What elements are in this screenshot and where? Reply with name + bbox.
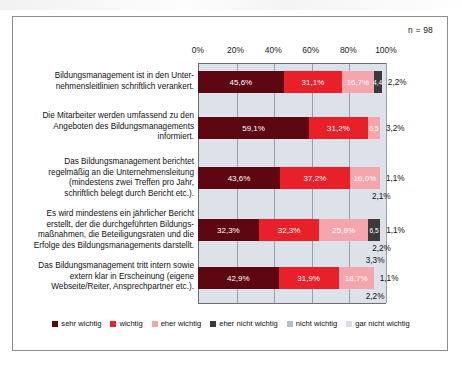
category-label-line: Webseite/Reiter, Ansprechpartner etc.). [19,282,194,293]
sample-size-label: n = 98 [408,25,433,35]
stacked-bar[interactable]: 42,9%31,9%18,7% [198,267,374,289]
segment-value-callout: 3,3% [366,256,385,265]
legend-label: gar nicht wichtig [355,319,409,328]
segment-value-callout: 1,1% [380,274,399,283]
legend-item[interactable]: gar nicht wichtig [346,319,409,328]
segment-value-callout: 1,1% [386,226,405,235]
category-label-line: Es wird mindestens ein jährlicher Berich… [19,209,194,220]
legend-label: wichtig [119,319,142,328]
bar-segment[interactable]: 31,2% [309,117,368,139]
legend-label: eher nicht wichtig [219,319,278,328]
category-label-line: Angeboten des Bildungsmanagements [19,122,194,133]
stacked-bar-chart: 0%20%40%60%80%100% Bildungsmanagement is… [13,45,449,313]
category-label-line: nehmensleitlinien schriftlich verankert. [19,82,194,93]
category-label: Bildungsmanagement ist in den Unter-nehm… [19,71,194,92]
legend-swatch [110,321,116,327]
category-label: Das Bildungsmanagement berichtetregelmäß… [19,157,194,199]
stacked-bar[interactable]: 59,1%31,2%6,5 [198,117,380,139]
bar-segment[interactable]: 42,9% [198,267,279,289]
segment-value-callout: 3,2% [386,124,405,133]
chart-frame: n = 98 0%20%40%60%80%100% Bildungsmanage… [12,16,448,351]
bar-segment[interactable]: 43,6% [198,167,280,189]
category-label-line: extern klar in Erscheinung (eigene [19,272,194,283]
segment-value-callout: 2,2% [372,244,391,253]
segment-value-callout: 1,1% [386,174,405,183]
category-label-line: erstellt, der die durchgeführten Bildung… [19,220,194,231]
x-axis-tick-labels: 0%20%40%60%80%100% [13,45,449,61]
x-tick-label: 100% [375,45,397,55]
category-label-line: Die Mitarbeiter werden umfassend zu den [19,111,194,122]
bar-segment[interactable]: 32,3% [198,219,259,241]
legend-label: eher wichtig [161,319,202,328]
bar-segment[interactable]: 4,4 [374,71,382,93]
category-label-line: Das Bildungsmanagement tritt intern sowi… [19,261,194,272]
legend-item[interactable]: eher wichtig [152,319,202,328]
x-tick-label: 20% [227,45,244,55]
legend-swatch [152,321,158,327]
gridline [386,63,387,303]
x-axis-bottom-line [198,303,386,304]
bar-segment[interactable]: 31,9% [279,267,339,289]
legend-item[interactable]: nicht wichtig [287,319,337,328]
scan-artifact [0,0,462,10]
chart-legend: sehr wichtigwichtigeher wichtigeher nich… [13,319,449,328]
bar-segment[interactable]: 37,2% [280,167,350,189]
category-label-line: informiert. [19,132,194,143]
x-tick-label: 80% [340,45,357,55]
legend-swatch [346,321,352,327]
category-label-line: regelmäßig an die Unternehmensleitung [19,168,194,179]
bar-segment[interactable]: 45,6% [198,71,284,93]
category-label-line: (mindestens zwei Treffen pro Jahr, [19,178,194,189]
legend-item[interactable]: wichtig [110,319,142,328]
stacked-bar[interactable]: 32,3%32,3%25,8%6,5 [198,219,380,241]
category-label-line: Das Bildungsmanagement berichtet [19,157,194,168]
category-label-line: schriftlich belegt durch Bericht etc.). [19,189,194,200]
segment-value-callout: 2,2% [388,78,407,87]
bar-segment[interactable]: 6,5 [368,219,380,241]
stacked-bar[interactable]: 43,6%37,2%16,0% [198,167,380,189]
bar-segment[interactable]: 32,3% [259,219,320,241]
category-label-line: Bildungsmanagement ist in den Unter- [19,71,194,82]
segment-value-callout: 2,2% [366,292,385,301]
category-label: Es wird mindestens ein jährlicher Berich… [19,209,194,251]
category-label: Das Bildungsmanagement tritt intern sowi… [19,261,194,293]
category-label: Die Mitarbeiter werden umfassend zu denA… [19,111,194,143]
x-tick-label: 60% [302,45,319,55]
x-tick-label: 0% [192,45,204,55]
legend-item[interactable]: sehr wichtig [52,319,101,328]
legend-item[interactable]: eher nicht wichtig [210,319,278,328]
bar-segment[interactable]: 59,1% [198,117,309,139]
bar-segment[interactable]: 31,1% [284,71,342,93]
page-root: n = 98 0%20%40%60%80%100% Bildungsmanage… [0,0,462,369]
x-tick-label: 40% [265,45,282,55]
category-label-line: maßnahmen, die Beteiligungsraten und die [19,230,194,241]
legend-label: sehr wichtig [61,319,101,328]
category-label-line: Erfolge des Bildungsmanagements darstell… [19,241,194,252]
bar-segment[interactable]: 18,7% [339,267,374,289]
legend-swatch [287,321,293,327]
bar-segment[interactable]: 6,5 [368,117,380,139]
bar-segment[interactable]: 16,0% [350,167,380,189]
stacked-bar[interactable]: 45,6%31,1%16,7%4,4 [198,71,382,93]
bar-segment[interactable]: 16,7% [342,71,373,93]
x-axis-top-line [198,63,386,64]
legend-swatch [210,321,216,327]
bar-segment[interactable]: 25,8% [319,219,368,241]
legend-label: nicht wichtig [296,319,337,328]
segment-value-callout: 2,1% [372,192,391,201]
legend-swatch [52,321,58,327]
